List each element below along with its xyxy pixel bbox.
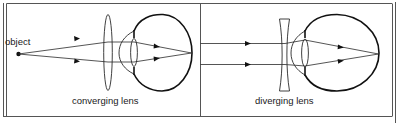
eye-left — [119, 14, 192, 91]
eyeball — [134, 14, 192, 91]
object-label: object — [5, 36, 31, 47]
arrow-lower-eye — [154, 57, 160, 62]
converging-lens — [104, 15, 113, 91]
ray-upper-eye — [134, 42, 192, 53]
panel-converging: object converging lens — [5, 14, 192, 106]
ray-lower-eye — [134, 53, 192, 62]
eye-right — [291, 15, 379, 92]
arrow-upper-parallel — [245, 41, 251, 46]
panel-diverging: diverging lens — [201, 15, 380, 107]
ray-upper-incoming — [19, 42, 109, 54]
lens-diagram: object converging lens — [0, 0, 399, 123]
eyeball — [305, 15, 379, 92]
arrow-upper-incoming — [74, 36, 80, 41]
cornea — [119, 31, 134, 74]
arrow-upper-eye — [154, 44, 160, 49]
ray-upper-between-right — [285, 40, 305, 44]
ray-lower-incoming — [19, 54, 109, 62]
crystalline-lens — [302, 39, 309, 67]
diverging-lens — [280, 19, 290, 91]
arrow-lower-parallel — [245, 62, 251, 67]
caption-diverging: diverging lens — [255, 95, 314, 106]
cornea — [291, 31, 305, 75]
caption-converging: converging lens — [72, 95, 139, 106]
diagram-frame — [3, 2, 396, 123]
